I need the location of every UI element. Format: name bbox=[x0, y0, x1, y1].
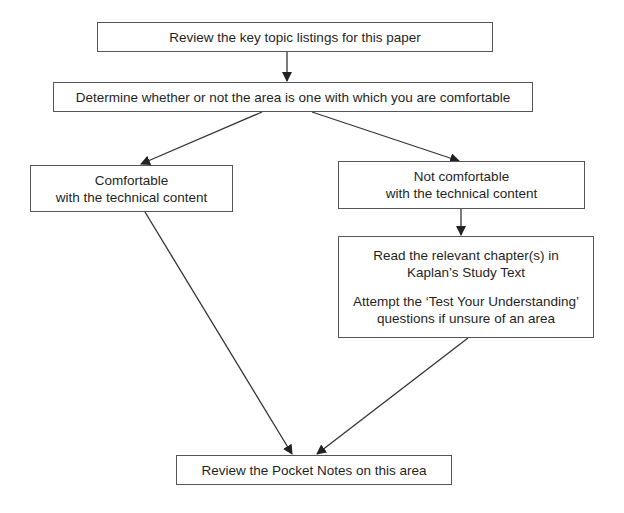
node-review-pocket-notes: Review the Pocket Notes on this area bbox=[176, 455, 452, 485]
node-text-line-4: Attempt the ‘Test Your Understanding’ bbox=[353, 293, 579, 310]
node-text-line-2: with the technical content bbox=[386, 185, 538, 202]
arrow-comfortable-to-pocket-notes bbox=[145, 212, 292, 454]
node-text-line-2: Kaplan’s Study Text bbox=[407, 264, 525, 281]
node-text-line-1: Not comfortable bbox=[414, 168, 509, 185]
node-text: Determine whether or not the area is one… bbox=[76, 89, 510, 106]
node-text-line-5: questions if unsure of an area bbox=[377, 310, 555, 327]
arrow-determine-to-comfortable bbox=[141, 112, 262, 164]
flowchart: Review the key topic listings for this p… bbox=[0, 0, 624, 513]
node-not-comfortable: Not comfortable with the technical conte… bbox=[338, 161, 585, 209]
node-text-line-1: Comfortable bbox=[95, 172, 169, 189]
node-read-chapters: Read the relevant chapter(s) in Kaplan’s… bbox=[338, 236, 594, 338]
arrow-read-to-pocket-notes bbox=[317, 338, 468, 454]
node-review-key-topics: Review the key topic listings for this p… bbox=[97, 22, 493, 52]
node-text-line-2: with the technical content bbox=[56, 189, 208, 206]
node-comfortable: Comfortable with the technical content bbox=[30, 165, 233, 212]
node-determine-comfort: Determine whether or not the area is one… bbox=[53, 82, 533, 112]
node-text: Review the key topic listings for this p… bbox=[169, 29, 420, 46]
arrow-determine-to-not-comfortable bbox=[312, 112, 459, 161]
node-text-line-1: Read the relevant chapter(s) in bbox=[373, 247, 558, 264]
node-text: Review the Pocket Notes on this area bbox=[201, 462, 426, 479]
